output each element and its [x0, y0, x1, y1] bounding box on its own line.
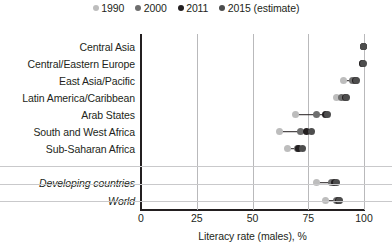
plot-area: Central AsiaCentral/Eastern EuropeEast A… — [141, 34, 364, 210]
x-tick-label-50: 50 — [247, 212, 259, 224]
data-point-1990[interactable] — [284, 145, 291, 152]
data-point-2015[interactable] — [360, 60, 367, 67]
row-label: Developing countries — [39, 177, 135, 189]
data-row[interactable]: Arab States — [141, 106, 364, 123]
data-row[interactable]: Central/Eastern Europe — [141, 55, 364, 72]
x-tick-label-75: 75 — [302, 212, 314, 224]
chart-legend: 1990200020112015 (estimate) — [0, 2, 392, 14]
legend-2000-dot-icon — [135, 5, 141, 11]
row-label: South and West Africa — [33, 126, 135, 138]
row-label: Central/Eastern Europe — [27, 58, 135, 70]
data-row[interactable]: Sub-Saharan Africa — [141, 140, 364, 157]
data-row[interactable]: East Asia/Pacific — [141, 72, 364, 89]
data-point-2000[interactable] — [313, 111, 320, 118]
legend-item[interactable]: 2000 — [135, 2, 166, 14]
chart-root: 1990200020112015 (estimate) Central Asia… — [0, 0, 392, 250]
row-label: Sub-Saharan Africa — [46, 143, 135, 155]
data-point-1990[interactable] — [340, 77, 347, 84]
x-axis-title: Literacy rate (males), % — [141, 230, 364, 242]
row-label: Central Asia — [80, 41, 135, 53]
x-tick-label-0: 0 — [138, 212, 144, 224]
legend-label: 1990 — [101, 2, 124, 14]
legend-label: 2000 — [144, 2, 167, 14]
data-point-2015[interactable] — [308, 128, 315, 135]
legend-item[interactable]: 2011 — [178, 2, 209, 14]
data-row[interactable]: Developing countries — [141, 174, 364, 191]
legend-item[interactable]: 2015 (estimate) — [219, 2, 299, 14]
data-row[interactable]: Central Asia — [141, 38, 364, 55]
legend-label: 2015 (estimate) — [228, 2, 299, 14]
legend-2011-dot-icon — [178, 5, 184, 11]
data-point-2015[interactable] — [360, 43, 367, 50]
legend-2015-dot-icon — [219, 5, 225, 11]
legend-1990-dot-icon — [93, 5, 99, 11]
row-label: Latin America/Caribbean — [22, 92, 135, 104]
legend-item[interactable]: 1990 — [93, 2, 124, 14]
data-point-1990[interactable] — [292, 111, 299, 118]
row-label: East Asia/Pacific — [59, 75, 135, 87]
data-point-2015[interactable] — [324, 111, 331, 118]
data-point-2015[interactable] — [343, 94, 350, 101]
data-point-2015[interactable] — [299, 145, 306, 152]
data-row[interactable]: South and West Africa — [141, 123, 364, 140]
data-point-2015[interactable] — [353, 77, 360, 84]
section-divider — [0, 184, 392, 185]
legend-label: 2011 — [186, 2, 208, 14]
x-tick-label-100: 100 — [355, 212, 373, 224]
x-tick-label-25: 25 — [191, 212, 203, 224]
data-point-1990[interactable] — [276, 128, 283, 135]
data-row[interactable]: Latin America/Caribbean — [141, 89, 364, 106]
row-label: Arab States — [81, 109, 135, 121]
section-divider — [0, 201, 392, 202]
section-divider — [0, 166, 392, 167]
